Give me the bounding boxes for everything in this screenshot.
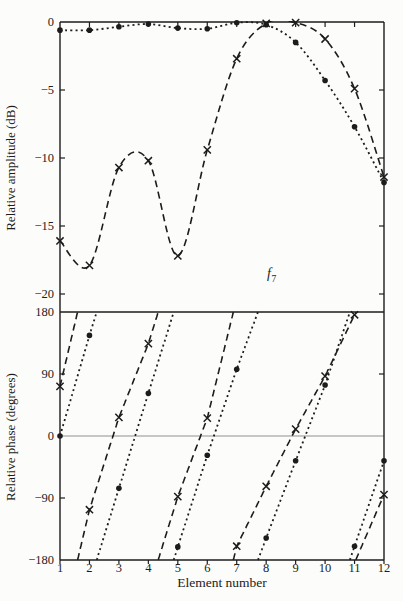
amplitude-curve-dotted-dot-series	[60, 22, 384, 182]
frequency-annotation: f7	[267, 266, 276, 284]
dot-marker	[234, 366, 240, 372]
x-marker	[174, 252, 181, 259]
amplitude-tick-label: −5	[41, 83, 54, 97]
phase-tick-label: −180	[28, 553, 54, 567]
x-tick-label: 2	[86, 561, 92, 575]
x-marker	[292, 426, 299, 433]
phase-curve-dotted-dot-series	[60, 312, 97, 436]
dot-marker	[293, 458, 299, 464]
phase-curve-dashed-x-series	[60, 312, 78, 386]
x-tick-label: 8	[263, 561, 269, 575]
x-marker	[321, 372, 328, 379]
phase-tick-label: −90	[34, 491, 54, 505]
x-marker	[86, 262, 93, 269]
x-tick-label: 11	[349, 561, 361, 575]
dot-marker	[116, 486, 122, 492]
x-marker	[321, 35, 328, 42]
x-tick-label: 7	[234, 561, 240, 575]
x-marker	[233, 55, 240, 62]
x-tick-label: 6	[204, 561, 210, 575]
phase-tick-label: 90	[42, 367, 55, 381]
x-marker	[115, 164, 122, 171]
x-tick-label: 12	[378, 561, 391, 575]
x-marker	[145, 157, 152, 164]
dot-marker	[322, 78, 328, 84]
dot-marker	[175, 544, 181, 550]
dot-marker	[352, 543, 358, 549]
dot-marker	[87, 27, 93, 33]
amplitude-axis-title: Relative amplitude (dB)	[3, 105, 18, 231]
x-tick-label: 5	[175, 561, 181, 575]
amplitude-tick-label: −20	[34, 287, 54, 301]
dot-marker	[263, 535, 269, 541]
x-tick-label: 4	[145, 561, 152, 575]
dot-marker	[293, 40, 299, 46]
x-axis-title: Element number	[177, 575, 267, 590]
chart-svg: 0−5−10−15−20180900−90−180123456789101112…	[0, 0, 403, 601]
phase-tick-label: 0	[48, 429, 54, 443]
x-marker	[115, 414, 122, 421]
x-tick-label: 1	[57, 561, 63, 575]
frequency-annotation-subscript: 7	[271, 274, 276, 284]
amplitude-tick-label: −10	[34, 151, 54, 165]
x-marker	[263, 483, 270, 490]
amplitude-curve-dashed-x-series	[60, 20, 384, 268]
dot-marker	[87, 333, 93, 339]
figure-chart: 0−5−10−15−20180900−90−180123456789101112…	[0, 0, 403, 601]
x-tick-label: 9	[293, 561, 299, 575]
amplitude-tick-label: −15	[34, 219, 54, 233]
x-tick-label: 3	[116, 561, 122, 575]
dot-marker	[352, 124, 358, 130]
x-tick-label: 10	[319, 561, 332, 575]
phase-markers	[56, 311, 387, 550]
amplitude-tick-label: 0	[48, 15, 54, 29]
chart-plot-area: 0−5−10−15−20180900−90−180123456789101112	[28, 15, 390, 575]
dot-marker	[146, 390, 152, 396]
dot-marker	[204, 452, 210, 458]
dot-marker	[322, 382, 328, 388]
x-marker	[351, 85, 358, 92]
amplitude-curves	[60, 20, 384, 268]
phase-tick-label: 180	[35, 305, 54, 319]
phase-axis-title: Relative phase (degrees)	[3, 373, 18, 501]
